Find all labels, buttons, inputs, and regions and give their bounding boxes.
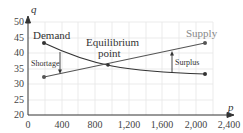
- x-tick: 2,400: [218, 119, 241, 130]
- shortage-label: Shortage: [31, 59, 60, 68]
- x-tick: 0: [26, 119, 31, 130]
- demand-label: Demand: [33, 29, 71, 41]
- supply-start-point: [42, 75, 46, 79]
- x-tick: 2,000: [185, 119, 208, 130]
- x-tick: 1,600: [151, 119, 174, 130]
- supply-label: Supply: [186, 27, 218, 39]
- x-tick-labels: 0 400 800 1,200 1,600 2,000 2,400: [26, 119, 241, 130]
- y-tick: 25: [14, 94, 24, 105]
- y-tick: 20: [14, 109, 24, 120]
- x-axis-arrow-icon: [227, 113, 234, 118]
- y-axis-title: q: [31, 3, 37, 15]
- y-axis-arrow-icon: [26, 16, 31, 23]
- y-tick: 45: [14, 32, 24, 43]
- supply-end-point: [203, 41, 207, 45]
- y-tick-labels: 20 25 30 35 40 45 50: [14, 16, 24, 120]
- equilibrium-point: [106, 63, 110, 67]
- equilibrium-label-line2: point: [98, 47, 121, 59]
- y-tick: 30: [14, 78, 24, 89]
- y-tick: 50: [14, 16, 24, 27]
- y-tick: 40: [14, 47, 24, 58]
- x-tick: 400: [55, 119, 70, 130]
- x-tick: 800: [88, 119, 103, 130]
- demand-end-point: [203, 72, 207, 76]
- x-axis-title: p: [227, 101, 234, 113]
- x-tick: 1,200: [118, 119, 141, 130]
- surplus-label: Surplus: [175, 58, 199, 67]
- y-tick: 35: [14, 63, 24, 74]
- demand-start-point: [42, 41, 46, 45]
- supply-demand-chart: q p 20 25 30 35 40 45 50 0 400 800 1,200…: [0, 0, 243, 133]
